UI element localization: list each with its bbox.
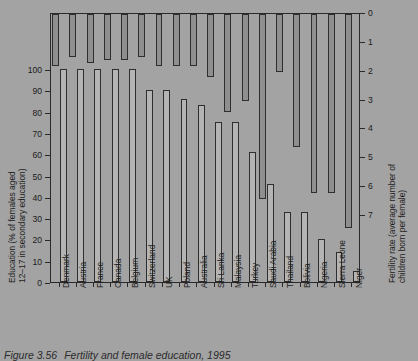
category-tick [248, 283, 249, 287]
category-tick [282, 283, 283, 287]
right-axis-tick [360, 186, 365, 187]
right-axis-tick-label: 5 [368, 152, 373, 162]
right-axis-tick [360, 13, 365, 14]
education-bar [163, 90, 170, 282]
left-axis-tick-label: 90 [10, 86, 42, 96]
right-axis-tick [360, 71, 365, 72]
fertility-bar [138, 14, 145, 57]
fertility-bar [293, 14, 300, 147]
left-axis-tick-label: 70 [10, 129, 42, 139]
education-bar [77, 69, 84, 282]
category-label-turkey: Turkey [251, 263, 259, 288]
right-axis-tick-label: 7 [368, 210, 373, 220]
fertility-bar [311, 14, 318, 193]
left-axis-tick-label: 30 [10, 214, 42, 224]
category-tick [93, 283, 94, 287]
category-label-saudi-arabia: Saudi Arabia [269, 241, 277, 289]
category-label-australia: Australia [200, 255, 208, 288]
right-axis-tick [360, 100, 365, 101]
right-axis-title-line2: children born per female) [398, 11, 408, 283]
category-label-poland: Poland [183, 262, 191, 288]
category-tick [145, 283, 146, 287]
category-tick [265, 283, 266, 287]
category-label-austria: Austria [79, 262, 87, 288]
category-label-canada: Canada [114, 259, 122, 288]
bars-layer [51, 14, 359, 282]
fertility-bar [276, 14, 283, 72]
category-label-malaysia: Malaysia [234, 255, 242, 288]
left-axis-tick [45, 283, 50, 284]
left-axis-tick-label: 40 [10, 193, 42, 203]
education-bar [181, 99, 188, 282]
category-label-sri-lanka: Sri Lanka [217, 253, 225, 288]
left-axis-tick-label: 20 [10, 235, 42, 245]
left-axis-tick-label: 80 [10, 108, 42, 118]
category-label-niger: Niger [355, 268, 363, 288]
category-tick [196, 283, 197, 287]
education-bar [94, 69, 101, 282]
category-tick [127, 283, 128, 287]
right-axis-tick-label: 1 [368, 37, 373, 47]
left-axis-tick-label: 50 [10, 172, 42, 182]
category-tick [317, 283, 318, 287]
right-axis-tick-label: 4 [368, 123, 373, 133]
category-label-belgium: Belgium [131, 258, 139, 288]
fertility-bar [190, 14, 197, 66]
category-tick [110, 283, 111, 287]
plot-area [50, 13, 360, 283]
fertility-bar [69, 14, 76, 57]
category-label-sierra-leone: Sierra Leone [338, 240, 346, 288]
category-tick [59, 283, 60, 287]
left-axis-tick-label: 0 [10, 278, 42, 288]
right-axis-tick-label: 0 [368, 8, 373, 18]
category-tick [300, 283, 301, 287]
education-bar [129, 69, 136, 282]
category-label-thailand: Thailand [286, 256, 294, 288]
left-axis-tick-label: 60 [10, 150, 42, 160]
fertility-bar [156, 14, 163, 66]
figure-number: Figure 3.56 [4, 349, 57, 361]
fertility-bar [173, 14, 180, 66]
right-axis-tick-label: 6 [368, 181, 373, 191]
right-axis-title-line1: Fertility rate (average number of [387, 164, 397, 283]
education-bar [112, 69, 119, 282]
category-label-uk: UK [165, 276, 173, 288]
education-bar [60, 69, 67, 282]
right-axis-tick [360, 157, 365, 158]
category-tick [334, 283, 335, 287]
right-axis-tick-label: 3 [368, 95, 373, 105]
fertility-bar [121, 14, 128, 60]
fertility-bar [242, 14, 249, 101]
right-axis-title: Fertility rate (average number of childr… [388, 11, 407, 283]
category-label-nigeria: Nigeria [320, 261, 328, 288]
right-axis-tick-label: 2 [368, 66, 373, 76]
fertility-bar [345, 14, 352, 228]
category-tick [76, 283, 77, 287]
left-axis-tick-label: 10 [10, 257, 42, 267]
fertility-bar [207, 14, 214, 77]
figure-caption: Figure 3.56Fertility and female educatio… [4, 349, 230, 361]
category-label-france: France [96, 262, 104, 288]
figure-caption-text: Fertility and female education, 1995 [64, 349, 230, 361]
category-label-denmark: Denmark [62, 254, 70, 288]
category-tick [231, 283, 232, 287]
fertility-bar [52, 14, 59, 66]
fertility-bar [328, 14, 335, 193]
left-axis-tick-label: 100 [10, 65, 42, 75]
category-tick [214, 283, 215, 287]
fertility-bar [259, 14, 266, 199]
fertility-bar [104, 14, 111, 60]
right-axis-tick [360, 128, 365, 129]
fertility-bar [87, 14, 94, 63]
category-label-switzerland: Switzerland [148, 245, 156, 288]
fertility-bar [224, 14, 231, 112]
category-tick [179, 283, 180, 287]
category-label-bolivia: Bolivia [303, 263, 311, 288]
category-tick [162, 283, 163, 287]
category-tick [351, 283, 352, 287]
right-axis-tick [360, 215, 365, 216]
right-axis-tick [360, 42, 365, 43]
